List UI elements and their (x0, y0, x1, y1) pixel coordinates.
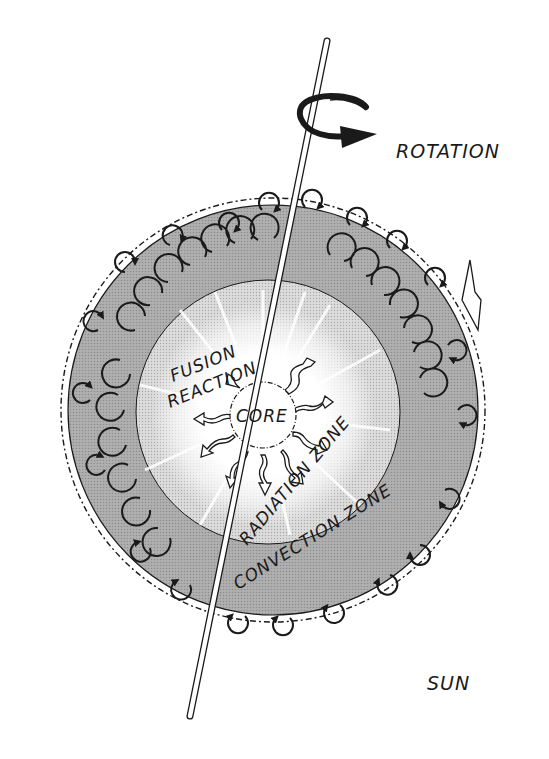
sun-label: SUN (427, 672, 470, 694)
core-label: CORE (236, 406, 288, 426)
rotation-label: ROTATION (396, 140, 500, 162)
sun-structure-diagram: ROTATION FUSION REACTION CORE RADIATION … (0, 0, 549, 759)
